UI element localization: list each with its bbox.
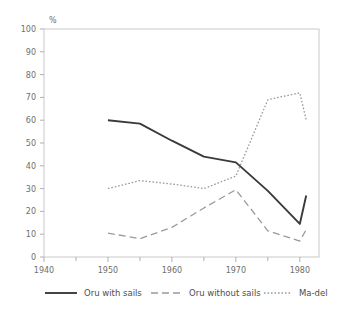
plot-border <box>44 29 319 257</box>
x-axis-tick-label: 1980 <box>290 266 310 275</box>
y-axis-unit-label: % <box>49 16 57 25</box>
y-axis-tick-label: 80 <box>26 71 36 80</box>
legend-label-0: Oru with sails <box>84 288 142 298</box>
legend-label-1: Oru without sails <box>189 288 261 298</box>
y-axis-tick-label: 10 <box>26 230 36 239</box>
x-axis-tick-label: 1970 <box>226 266 246 275</box>
y-axis-tick-label: 50 <box>26 139 36 148</box>
x-axis-tick-label: 1940 <box>34 266 54 275</box>
y-axis-tick-label: 30 <box>26 185 36 194</box>
series-line-2 <box>108 93 306 189</box>
y-axis-tick-label: 20 <box>26 207 36 216</box>
chart-figure: 0102030405060708090100%19401950196019701… <box>0 0 342 314</box>
y-axis-tick-label: 40 <box>26 162 36 171</box>
y-axis-tick-label: 0 <box>31 253 36 262</box>
y-axis-tick-label: 70 <box>26 93 36 102</box>
x-axis-tick-label: 1950 <box>98 266 118 275</box>
y-axis-tick-label: 60 <box>26 116 36 125</box>
legend-label-2: Ma-del <box>299 288 328 298</box>
y-axis-tick-label: 100 <box>21 25 36 34</box>
line-chart: 0102030405060708090100%19401950196019701… <box>0 0 342 314</box>
x-axis-tick-label: 1960 <box>162 266 182 275</box>
y-axis-tick-label: 90 <box>26 48 36 57</box>
series-line-1 <box>108 190 306 241</box>
series-line-0 <box>108 120 306 224</box>
